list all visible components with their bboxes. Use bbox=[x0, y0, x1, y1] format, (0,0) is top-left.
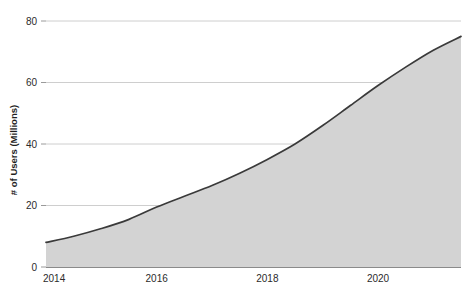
chart-container: 020406080 2014201620182020 # of Users (M… bbox=[0, 0, 467, 298]
y-axis-title: # of Users (Millions) bbox=[8, 105, 19, 195]
y-tick-label: 40 bbox=[26, 139, 38, 150]
x-tick-label: 2014 bbox=[43, 273, 66, 284]
y-tick-label: 60 bbox=[26, 77, 38, 88]
y-tick-label: 80 bbox=[26, 16, 38, 27]
x-tick-label: 2016 bbox=[146, 273, 169, 284]
x-tick-label: 2020 bbox=[367, 273, 390, 284]
y-tick-label: 20 bbox=[26, 200, 38, 211]
x-tick-label: 2018 bbox=[256, 273, 279, 284]
y-tick-label: 0 bbox=[31, 262, 37, 273]
area-chart: 020406080 2014201620182020 # of Users (M… bbox=[0, 0, 467, 298]
